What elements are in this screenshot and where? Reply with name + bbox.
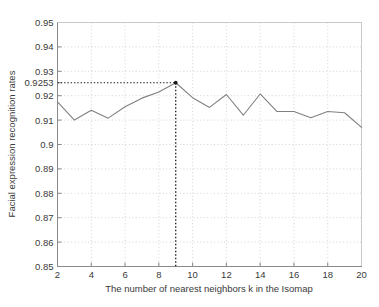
peak-marker-dot <box>174 81 178 85</box>
chart-svg: 0.850.860.870.880.890.90.910.920.92530.9… <box>0 0 379 307</box>
x-tick-label: 6 <box>122 269 127 280</box>
y-tick-label: 0.89 <box>35 163 54 174</box>
y-tick-label: 0.92 <box>35 90 54 101</box>
y-tick-label: 0.9 <box>40 139 53 150</box>
chart-background <box>0 0 379 307</box>
y-tick-label-peak: 0.9253 <box>24 77 53 88</box>
chart-figure: 0.850.860.870.880.890.90.910.920.92530.9… <box>0 0 379 307</box>
y-tick-label: 0.95 <box>35 17 54 28</box>
x-tick-label: 8 <box>156 269 161 280</box>
y-tick-label: 0.87 <box>35 212 54 223</box>
x-tick-label: 4 <box>89 269 94 280</box>
x-tick-label: 16 <box>289 269 300 280</box>
x-axis-title: The number of nearest neighbors k in the… <box>105 283 313 294</box>
x-tick-label: 2 <box>55 269 60 280</box>
y-tick-label: 0.86 <box>35 237 54 248</box>
x-tick-label: 12 <box>221 269 232 280</box>
x-tick-label: 10 <box>187 269 198 280</box>
y-tick-label: 0.91 <box>35 115 54 126</box>
y-tick-label: 0.88 <box>35 188 54 199</box>
x-tick-label: 18 <box>322 269 333 280</box>
x-tick-label: 14 <box>255 269 266 280</box>
x-tick-label: 20 <box>356 269 367 280</box>
y-tick-label: 0.94 <box>35 41 54 52</box>
y-tick-label: 0.93 <box>35 66 54 77</box>
y-axis-title: Facial expression recognition rates <box>6 70 17 217</box>
y-tick-label: 0.85 <box>35 261 54 272</box>
